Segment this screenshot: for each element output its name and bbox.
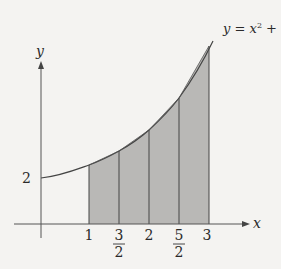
trapezoid-rule-diagram: x y 2 y = x2 + 2 1 3 2 2 5 2 3 (0, 0, 281, 269)
tick-label-5-2-numerator: 5 (175, 227, 184, 243)
y-axis-arrow-icon (38, 61, 44, 69)
x-tick-labels: 1 3 2 2 5 2 3 (85, 227, 212, 260)
tick-label-5-2-denominator: 2 (175, 244, 184, 260)
y-axis-label: y (35, 43, 45, 59)
y-intercept-label: 2 (22, 170, 31, 186)
x-axis-arrow-icon (242, 221, 250, 227)
tick-label-1: 1 (85, 227, 94, 243)
tick-label-2: 2 (145, 227, 154, 243)
tick-label-3: 3 (203, 227, 212, 243)
tick-label-3-2-numerator: 3 (115, 227, 124, 243)
tick-label-3-2-denominator: 2 (115, 244, 124, 260)
x-axis-label: x (253, 215, 261, 231)
curve-label: y = x2 + 2 (222, 21, 281, 36)
